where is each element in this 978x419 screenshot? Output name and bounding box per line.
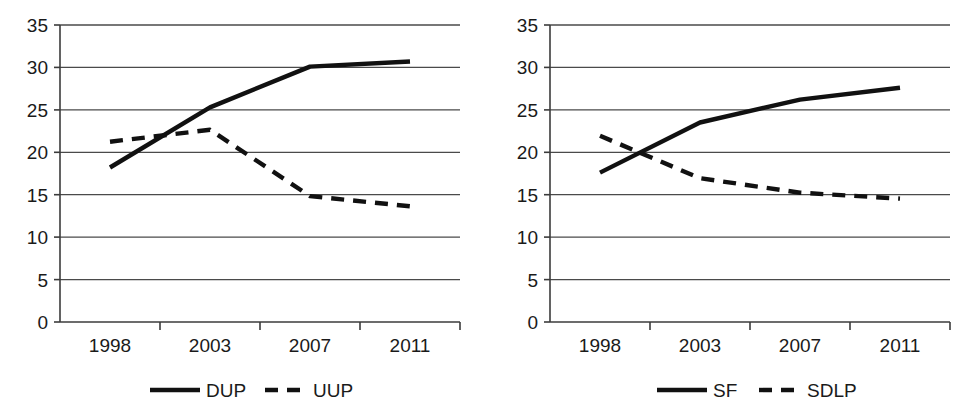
right-y-tick-marks (544, 25, 550, 322)
legend-label-sf: SF (713, 380, 737, 401)
y-tick-label: 5 (527, 270, 538, 291)
chart-panel-left: 35 30 25 20 15 10 5 0 1998 2003 2007 201… (0, 0, 489, 419)
y-tick-label: 10 (517, 227, 538, 248)
series-line-sdlp (600, 136, 900, 199)
right-legend: SF SDLP (657, 380, 857, 401)
y-tick-label: 30 (517, 57, 538, 78)
right-gridlines (550, 25, 950, 280)
y-tick-label: 20 (27, 142, 48, 163)
y-tick-label: 25 (27, 100, 48, 121)
x-tick-label: 2007 (289, 335, 331, 356)
y-tick-label: 15 (517, 185, 538, 206)
left-y-tick-labels: 35 30 25 20 15 10 5 0 (27, 15, 48, 333)
x-tick-label: 1998 (579, 335, 621, 356)
y-tick-label: 0 (37, 312, 48, 333)
x-tick-label: 2007 (779, 335, 821, 356)
legend-label-uup: UUP (313, 380, 353, 401)
left-y-tick-marks (54, 25, 60, 322)
series-line-dup (110, 62, 410, 168)
right-x-tick-labels: 1998 2003 2007 2011 (579, 335, 921, 356)
legend-label-sdlp: SDLP (807, 380, 857, 401)
x-tick-label: 2011 (880, 335, 921, 356)
right-y-tick-labels: 35 30 25 20 15 10 5 0 (517, 15, 538, 333)
y-tick-label: 20 (517, 142, 538, 163)
series-line-sf (600, 88, 900, 173)
y-tick-label: 15 (27, 185, 48, 206)
x-tick-label: 2003 (679, 335, 721, 356)
x-tick-label: 2011 (390, 335, 431, 356)
legend-label-dup: DUP (206, 380, 246, 401)
y-tick-label: 35 (517, 15, 538, 36)
y-tick-label: 5 (37, 270, 48, 291)
left-x-tick-marks (160, 322, 460, 330)
x-tick-label: 1998 (89, 335, 131, 356)
y-tick-label: 25 (517, 100, 538, 121)
y-tick-label: 0 (527, 312, 538, 333)
y-tick-label: 35 (27, 15, 48, 36)
chart-panel-right: 35 30 25 20 15 10 5 0 1998 2003 2007 201… (489, 0, 978, 419)
y-tick-label: 30 (27, 57, 48, 78)
right-x-tick-marks (650, 322, 950, 330)
x-tick-label: 2003 (189, 335, 231, 356)
left-x-tick-labels: 1998 2003 2007 2011 (89, 335, 431, 356)
y-tick-label: 10 (27, 227, 48, 248)
left-legend: DUP UUP (150, 380, 353, 401)
two-panel-line-chart-figure: 35 30 25 20 15 10 5 0 1998 2003 2007 201… (0, 0, 978, 419)
